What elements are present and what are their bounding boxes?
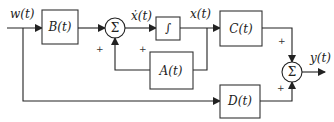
sum2-plus-sign-bottom: +	[277, 83, 285, 93]
c-block-label: C(t)	[229, 22, 253, 36]
state-derivative-label: ẋ(t)	[131, 9, 152, 23]
sigma-icon: Σ	[111, 21, 119, 35]
sum1-plus-sign-bottom: +	[139, 44, 147, 54]
summing-junction-1: Σ	[105, 18, 125, 38]
output-signal-label: y(t)	[309, 51, 331, 65]
d-block-label: D(t)	[227, 94, 252, 108]
c-block: C(t)	[220, 11, 262, 46]
b-block: B(t)	[42, 10, 78, 44]
summing-junction-2: Σ	[282, 62, 302, 82]
input-signal-label: w(t)	[10, 7, 35, 21]
block-diagram: w(t) B(t) Σ + + ẋ(t) ∫ x(t) A(t) C(t) + …	[0, 0, 334, 122]
sigma-icon: Σ	[288, 65, 296, 79]
integrator-block: ∫	[156, 17, 180, 40]
sum2-plus-sign-top: +	[278, 36, 286, 46]
d-to-sum-wire	[260, 82, 292, 101]
state-label: x(t)	[190, 7, 211, 21]
b-block-label: B(t)	[47, 20, 71, 34]
feedback-wire-in	[193, 28, 207, 70]
a-block: A(t)	[150, 52, 193, 89]
feedback-wire-out	[115, 38, 150, 70]
integral-icon: ∫	[165, 21, 172, 35]
c-to-sum-wire	[262, 28, 292, 62]
d-block: D(t)	[220, 85, 260, 118]
sum1-plus-sign-left: +	[96, 44, 104, 54]
a-block-label: A(t)	[159, 64, 183, 78]
